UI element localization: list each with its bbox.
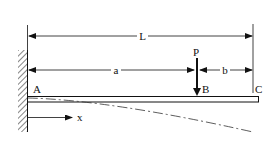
dimension-b: b: [200, 64, 252, 76]
load-arrow-p: P: [193, 46, 201, 96]
x-axis-arrow: x: [28, 111, 83, 123]
label-point-b: B: [202, 83, 209, 95]
fixed-wall-support: [18, 50, 28, 132]
deflection-curve: [28, 98, 253, 132]
label-a: a: [114, 64, 119, 76]
label-l: L: [139, 30, 146, 42]
cantilever-beam-diagram: L a b P A B C x: [0, 0, 278, 141]
label-b: b: [222, 64, 228, 76]
dimension-l: L: [29, 30, 252, 42]
dimension-a: a: [29, 64, 194, 76]
label-point-c: C: [255, 83, 262, 95]
label-p: P: [193, 46, 199, 58]
label-x: x: [77, 111, 83, 123]
beam: [28, 97, 259, 103]
label-point-a: A: [33, 83, 41, 95]
